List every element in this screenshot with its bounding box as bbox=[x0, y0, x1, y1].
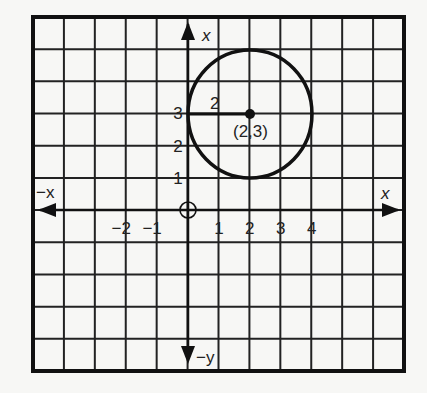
x-axis-positive-label: x bbox=[380, 184, 390, 203]
x-tick-label: 3 bbox=[276, 219, 285, 238]
x-tick-label: −1 bbox=[142, 219, 161, 238]
x-tick-labels: −2−11234 bbox=[111, 219, 316, 238]
center-label: (2,3) bbox=[233, 122, 268, 141]
y-axis-up-arrow-icon bbox=[181, 22, 195, 40]
y-axis-down-arrow-icon bbox=[181, 346, 195, 364]
x-axis-negative-label: −x bbox=[36, 183, 55, 202]
x-axis-left-arrow-icon bbox=[38, 203, 56, 217]
x-tick-label: 4 bbox=[307, 219, 316, 238]
y-tick-labels: 123 bbox=[173, 104, 182, 187]
x-tick-label: 1 bbox=[214, 219, 223, 238]
y-axis-positive-label: x bbox=[201, 26, 211, 45]
radius-label: 2 bbox=[210, 94, 219, 113]
coordinate-plane: x −y −x x 2 (2,3) −2−11234 123 bbox=[0, 0, 427, 393]
y-axis-negative-label: −y bbox=[196, 348, 215, 367]
center-point bbox=[245, 109, 255, 119]
y-tick-label: 3 bbox=[173, 104, 182, 123]
x-tick-label: 2 bbox=[245, 219, 254, 238]
y-tick-label: 1 bbox=[173, 169, 182, 188]
x-tick-label: −2 bbox=[111, 219, 130, 238]
x-axis-right-arrow-icon bbox=[382, 203, 400, 217]
grid-lines bbox=[33, 17, 404, 371]
y-tick-label: 2 bbox=[173, 137, 182, 156]
